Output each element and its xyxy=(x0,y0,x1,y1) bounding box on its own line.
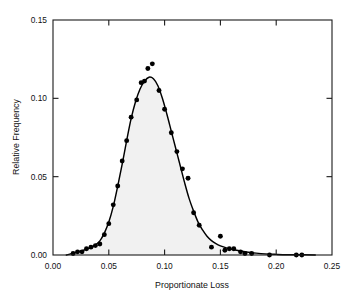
x-axis-tick-label: 0.15 xyxy=(212,261,229,271)
data-point xyxy=(111,202,116,207)
x-axis-tick-label: 0.20 xyxy=(268,261,285,271)
data-point xyxy=(88,245,93,250)
data-point xyxy=(157,88,162,93)
data-point xyxy=(134,97,139,102)
data-point xyxy=(106,221,111,226)
data-point xyxy=(180,166,185,171)
data-point xyxy=(75,249,80,254)
x-axis-title: Proportionate Loss xyxy=(155,280,229,290)
curve-area-fill xyxy=(66,77,315,255)
x-axis-tick-label: 0.10 xyxy=(156,261,173,271)
data-point xyxy=(162,107,167,112)
data-point xyxy=(84,246,89,251)
x-axis-tick-labels: 0.000.050.100.150.200.25 xyxy=(45,261,341,271)
scatter-plot: 0.000.050.100.150.200.25 0.000.050.100.1… xyxy=(0,0,357,297)
data-point xyxy=(174,149,179,154)
data-point xyxy=(209,245,214,250)
y-axis-title: Relative Frequency xyxy=(11,99,21,175)
y-axis-tick-label: 0.15 xyxy=(31,15,48,25)
data-point xyxy=(238,249,243,254)
data-point xyxy=(97,242,102,247)
data-point xyxy=(129,115,134,120)
data-point xyxy=(150,61,155,66)
data-point xyxy=(197,223,202,228)
data-point xyxy=(80,249,85,254)
data-point xyxy=(145,66,150,71)
y-axis-tick-label: 0.00 xyxy=(31,250,48,260)
chart-container: 0.000.050.100.150.200.25 0.000.050.100.1… xyxy=(0,0,357,297)
data-point xyxy=(120,159,125,164)
data-point xyxy=(222,248,227,253)
data-point xyxy=(142,79,147,84)
data-point xyxy=(191,210,196,215)
data-point xyxy=(93,243,98,248)
x-axis-tick-label: 0.25 xyxy=(324,261,341,271)
data-point xyxy=(231,246,236,251)
data-point xyxy=(102,232,107,237)
y-axis-tick-label: 0.10 xyxy=(31,93,48,103)
data-point xyxy=(124,138,129,143)
data-point xyxy=(218,234,223,239)
y-axis-tick-labels: 0.000.050.100.15 xyxy=(31,15,48,260)
data-point xyxy=(115,184,120,189)
x-axis-tick-label: 0.00 xyxy=(45,261,62,271)
data-point xyxy=(169,130,174,135)
y-axis-tick-label: 0.05 xyxy=(31,172,48,182)
data-point xyxy=(227,246,232,251)
x-axis-tick-label: 0.05 xyxy=(101,261,118,271)
data-point xyxy=(186,176,191,181)
